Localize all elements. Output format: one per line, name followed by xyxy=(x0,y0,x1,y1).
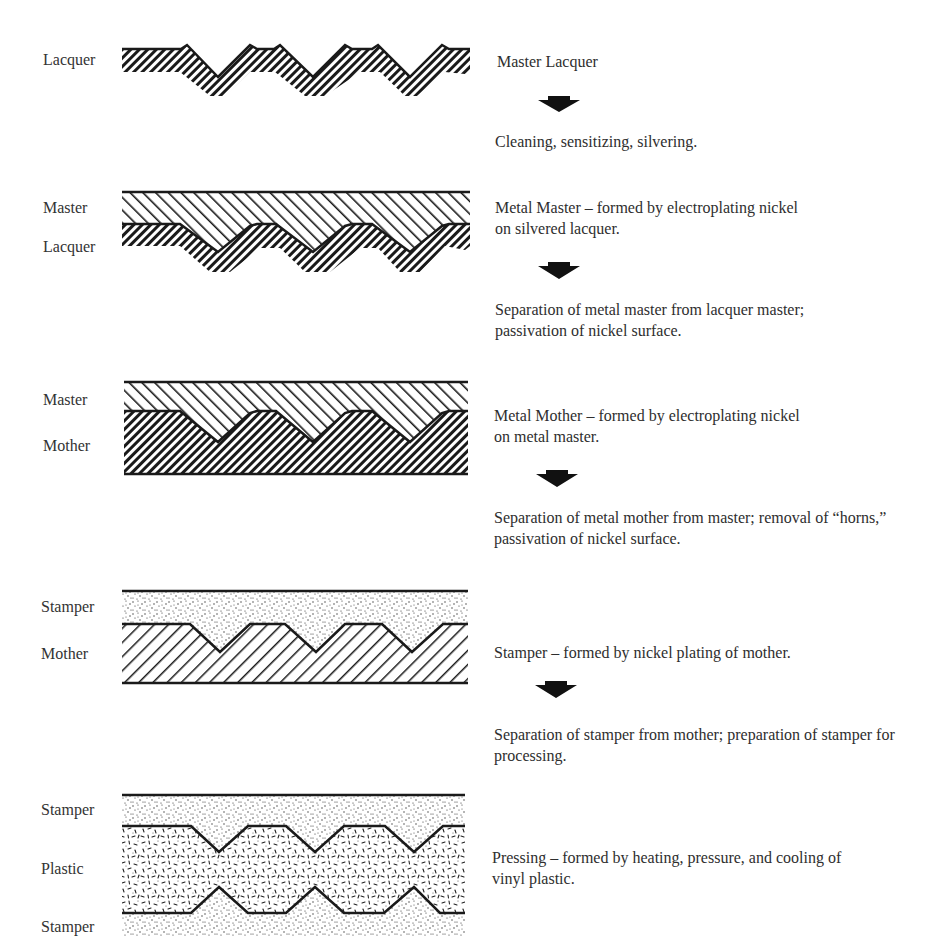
stage-description: Master Lacquer xyxy=(497,51,917,72)
process-step: Separation of metal master from lacquer … xyxy=(495,299,835,341)
process-step: Separation of metal mother from master; … xyxy=(494,507,914,549)
stage-description: Stamper – formed by nickel plating of mo… xyxy=(494,642,914,663)
lacquer-cross-section xyxy=(122,45,470,96)
stage-description: Metal Master – formed by electroplating … xyxy=(495,197,815,239)
layer-label-lacquer: Lacquer xyxy=(43,238,95,256)
layer-label-stamper: Stamper xyxy=(41,598,94,616)
metal-mother-cross-section xyxy=(124,382,468,474)
pressing-cross-section xyxy=(122,795,465,936)
process-step: Cleaning, sensitizing, silvering. xyxy=(495,131,915,152)
layer-label-stamper: Stamper xyxy=(41,801,94,819)
layer-label-master: Master xyxy=(43,391,87,409)
stage-description: Metal Mother – formed by electroplating … xyxy=(494,405,814,447)
down-arrow-icon xyxy=(536,470,578,487)
layer-label-master: Master xyxy=(43,199,87,217)
metal-master-cross-section xyxy=(122,192,470,272)
down-arrow-icon xyxy=(538,96,580,112)
stage-description: Pressing – formed by heating, pressure, … xyxy=(492,847,872,889)
layer-label-plastic: Plastic xyxy=(41,860,84,878)
layer-label-stamper: Stamper xyxy=(41,918,94,936)
down-arrow-icon xyxy=(538,262,580,279)
stamper-cross-section xyxy=(122,591,468,683)
layer-label-mother: Mother xyxy=(41,645,88,663)
layer-label-mother: Mother xyxy=(43,437,90,455)
down-arrow-icon xyxy=(535,681,577,698)
process-step: Separation of stamper from mother; prepa… xyxy=(494,724,914,766)
layer-label-lacquer: Lacquer xyxy=(43,51,95,69)
